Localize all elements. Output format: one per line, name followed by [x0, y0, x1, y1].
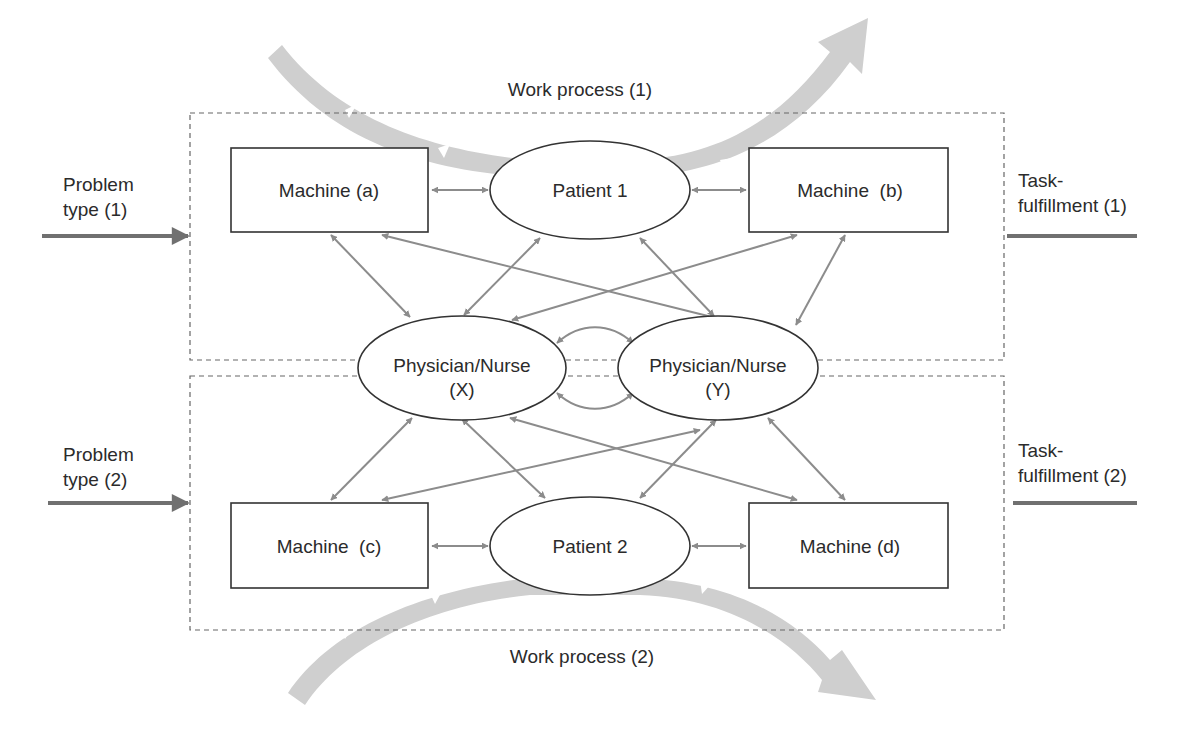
physician-x-y-top-connector	[557, 327, 633, 343]
patient-1-label: Patient 1	[553, 180, 628, 201]
machine-c-node[interactable]: Machine (c)	[231, 503, 428, 588]
patient-2-node[interactable]: Patient 2	[490, 497, 690, 595]
work-process-1-label: Work process (1)	[508, 79, 652, 100]
problem-type-1-label-line2: type (1)	[63, 199, 127, 220]
physician-nurse-x-node[interactable]: Physician/Nurse (X)	[358, 316, 566, 420]
physician-x-label-line2: (X)	[449, 379, 474, 400]
patient-2-label: Patient 2	[553, 536, 628, 557]
machine-b-node[interactable]: Machine (b)	[749, 148, 948, 232]
task-fulfillment-2-label-line2: fulfillment (2)	[1018, 465, 1127, 486]
work-process-diagram: Machine (a) Machine (b) Machine (c) Mach…	[0, 0, 1195, 732]
machine-b-label: Machine (b)	[797, 180, 903, 201]
problem-type-2-label-line1: Problem	[63, 444, 134, 465]
physician-x-y-bottom-connector	[557, 393, 633, 409]
task-fulfillment-1-label-line1: Task-	[1018, 170, 1063, 191]
machine-a-label: Machine (a)	[279, 180, 379, 201]
patient-1-node[interactable]: Patient 1	[490, 141, 690, 239]
physician-y-label-line2: (Y)	[705, 379, 730, 400]
work-process-2-label: Work process (2)	[510, 646, 654, 667]
physician-nurse-y-node[interactable]: Physician/Nurse (Y)	[618, 316, 818, 420]
machine-c-label: Machine (c)	[277, 536, 382, 557]
machine-d-label: Machine (d)	[800, 536, 900, 557]
problem-type-1-label-line1: Problem	[63, 174, 134, 195]
problem-type-2-label-line2: type (2)	[63, 469, 127, 490]
physician-x-label-line1: Physician/Nurse	[393, 355, 530, 376]
work-process-2-flow-arrow	[288, 578, 876, 705]
machine-d-node[interactable]: Machine (d)	[749, 503, 948, 588]
task-fulfillment-1-label-line2: fulfillment (1)	[1018, 195, 1127, 216]
task-fulfillment-2-label-line1: Task-	[1018, 440, 1063, 461]
machine-a-node[interactable]: Machine (a)	[231, 148, 428, 232]
physician-y-label-line1: Physician/Nurse	[649, 355, 786, 376]
